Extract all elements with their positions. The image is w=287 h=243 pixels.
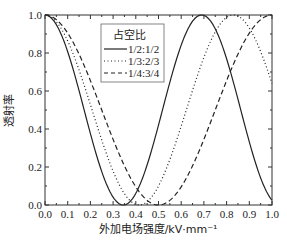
y-tick-label: 0.0 [28,199,42,211]
y-tick-label: 0.2 [28,161,42,173]
x-tick-label: 0.3 [106,208,120,220]
legend-label-3: 1/4:3/4 [128,67,160,79]
y-tick-label: 0.4 [28,123,42,135]
x-tick-label: 0.5 [152,208,166,220]
x-tick-label: 0.9 [242,208,256,220]
x-tick-label: 0.2 [84,208,98,220]
x-axis-label: 外加电场强度/kV·mm⁻¹ [99,222,218,236]
y-tick-label: 0.6 [28,85,42,97]
legend-label-1: 1/2:1/2 [128,43,159,55]
x-tick-label: 0.8 [220,208,234,220]
y-tick-label: 0.8 [28,47,42,59]
x-tick-label: 0.7 [197,208,211,220]
y-axis-label: 透射率 [2,94,16,127]
x-tick-label: 0.6 [174,208,188,220]
x-tick-label: 0.4 [129,208,143,220]
legend-title: 占空比 [113,28,146,42]
legend: 占空比 1/2:1/2 1/3:2/3 1/4:3/4 [101,24,164,82]
y-tick-label: 1.0 [28,9,42,21]
transmittance-chart: 0.00.10.20.30.40.50.60.70.80.91.0 0.00.2… [0,0,287,243]
x-tick-label: 0.1 [61,208,75,220]
legend-label-2: 1/3:2/3 [128,55,160,67]
x-tick-label: 1.0 [265,208,279,220]
